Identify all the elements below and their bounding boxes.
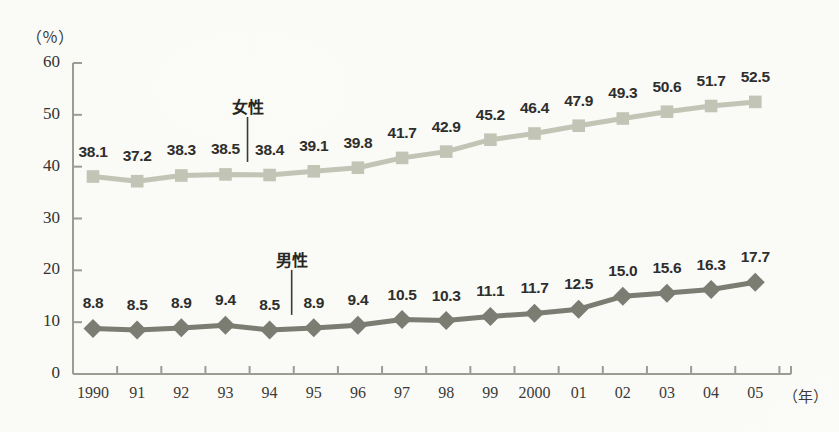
data-point-marker (437, 311, 456, 330)
data-point-marker (572, 119, 585, 132)
data-point-marker (219, 168, 232, 181)
y-axis-tick-label: 30 (26, 208, 60, 228)
data-point-marker (131, 175, 144, 188)
data-point-marker (84, 319, 103, 338)
data-point-value-label: 38.4 (248, 141, 292, 159)
y-axis-tick-label: 40 (26, 156, 60, 176)
data-point-value-label: 11.7 (513, 279, 557, 297)
data-point-marker (481, 307, 500, 326)
data-point-marker (657, 284, 676, 303)
x-axis-unit-text: （年） (783, 389, 828, 405)
chart-page: （％） 0102030405060 1990919293949596979899… (0, 0, 839, 432)
data-point-value-label: 8.5 (115, 296, 159, 314)
data-point-marker (352, 161, 365, 174)
data-point-marker (304, 318, 323, 337)
x-axis-tick-label: 05 (728, 384, 782, 402)
data-point-marker (525, 304, 544, 323)
data-point-value-label: 12.5 (557, 275, 601, 293)
data-point-marker (702, 280, 721, 299)
data-point-value-label: 49.3 (601, 84, 645, 102)
y-axis-tick-label: 0 (26, 363, 60, 383)
data-point-marker (308, 165, 321, 178)
data-point-value-label: 46.4 (513, 99, 557, 117)
data-point-marker (746, 273, 765, 292)
data-point-value-label: 39.8 (336, 134, 380, 152)
y-axis-tick-label: 10 (26, 311, 60, 331)
data-point-value-label: 9.4 (336, 291, 380, 309)
data-point-value-label: 38.1 (71, 143, 115, 161)
data-point-value-label: 51.7 (689, 72, 733, 90)
data-point-value-label: 42.9 (424, 118, 468, 136)
data-point-value-label: 45.2 (468, 106, 512, 124)
data-point-marker (172, 318, 191, 337)
data-point-value-label: 16.3 (689, 256, 733, 274)
data-point-marker (87, 170, 100, 183)
data-point-marker (528, 127, 541, 140)
data-point-marker (705, 100, 718, 113)
data-point-marker (749, 96, 762, 109)
data-point-marker (348, 316, 367, 335)
data-point-value-label: 39.1 (292, 137, 336, 155)
data-point-marker (569, 300, 588, 319)
data-point-marker (613, 287, 632, 306)
data-point-value-label: 8.5 (248, 296, 292, 314)
series-name-label: 女性 (218, 94, 278, 118)
data-point-value-label: 37.2 (115, 147, 159, 165)
series-name-label: 男性 (262, 247, 322, 271)
data-point-marker (617, 112, 630, 125)
data-point-value-label: 9.4 (203, 291, 247, 309)
data-point-value-label: 15.6 (645, 259, 689, 277)
y-axis-tick-label: 50 (26, 104, 60, 124)
data-point-value-label: 47.9 (557, 92, 601, 110)
data-point-value-label: 8.8 (71, 294, 115, 312)
data-point-marker (393, 310, 412, 329)
y-axis-tick-label: 60 (26, 52, 60, 72)
data-point-marker (216, 316, 235, 335)
data-point-marker (175, 169, 188, 182)
data-point-marker (484, 133, 497, 146)
data-point-value-label: 17.7 (733, 248, 777, 266)
data-point-value-label: 38.3 (159, 141, 203, 159)
data-point-value-label: 10.5 (380, 286, 424, 304)
data-point-value-label: 11.1 (468, 282, 512, 300)
data-point-marker (260, 320, 279, 339)
data-point-value-label: 38.5 (203, 140, 247, 158)
data-point-marker (263, 169, 276, 182)
data-point-marker (661, 105, 674, 118)
data-point-value-label: 10.3 (424, 287, 468, 305)
line-chart-canvas (0, 0, 839, 432)
data-point-value-label: 8.9 (159, 294, 203, 312)
data-point-value-label: 8.9 (292, 294, 336, 312)
data-point-value-label: 41.7 (380, 124, 424, 142)
data-point-marker (440, 145, 453, 158)
x-axis-unit-label: （年） (783, 385, 828, 406)
y-axis-tick-label: 20 (26, 259, 60, 279)
data-point-value-label: 50.6 (645, 78, 689, 96)
data-point-marker (128, 320, 147, 339)
data-point-value-label: 52.5 (733, 68, 777, 86)
data-point-marker (396, 152, 409, 165)
data-point-value-label: 15.0 (601, 262, 645, 280)
